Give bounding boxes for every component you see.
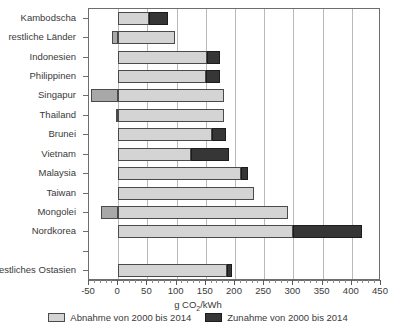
legend-swatch-increase-icon bbox=[205, 313, 222, 322]
bar-row bbox=[89, 86, 379, 106]
x-axis-tick bbox=[310, 280, 311, 283]
x-axis-tick bbox=[333, 280, 334, 283]
legend-item-increase: Zunahme von 2000 bis 2014 bbox=[205, 312, 347, 323]
bar-row bbox=[89, 242, 379, 262]
y-axis-label-brunei: Brunei bbox=[49, 124, 76, 144]
x-axis-tick bbox=[362, 280, 363, 283]
bar-row bbox=[89, 67, 379, 87]
bar-increase bbox=[227, 264, 232, 277]
x-axis-tick bbox=[281, 280, 282, 283]
x-axis-tick bbox=[135, 280, 136, 283]
x-axis-tick-label: 300 bbox=[284, 285, 300, 296]
x-axis-tick-label: 0 bbox=[115, 285, 120, 296]
x-axis-tick bbox=[269, 280, 270, 283]
y-axis-label-malaysia: Malaysia bbox=[39, 163, 77, 183]
bar-decrease bbox=[118, 12, 149, 25]
bar-increase bbox=[149, 12, 168, 25]
x-axis-tick bbox=[345, 280, 346, 283]
bar-decrease bbox=[118, 31, 175, 44]
bar-row bbox=[89, 203, 379, 223]
chart-legend: Abnahme von 2000 bis 2014 Zunahme von 20… bbox=[0, 312, 396, 323]
x-axis-title-post: /kWh bbox=[200, 299, 222, 310]
bar-decrease bbox=[118, 187, 254, 200]
y-axis-label-vietnam: Vietnam bbox=[41, 144, 76, 164]
x-axis-title-pre: g CO bbox=[174, 299, 196, 310]
x-axis-tick bbox=[181, 280, 182, 283]
bar-decrease bbox=[118, 70, 206, 83]
bar-row bbox=[89, 9, 379, 29]
x-axis-tick-label: 50 bbox=[141, 285, 152, 296]
bar-increase bbox=[293, 225, 362, 238]
x-axis-tick bbox=[187, 280, 188, 283]
y-axis-label-philippinen: Philippinen bbox=[30, 66, 76, 86]
bar-row bbox=[89, 106, 379, 126]
bar-decrease bbox=[118, 128, 211, 141]
x-axis-tick-label: 100 bbox=[168, 285, 184, 296]
bar-rows bbox=[89, 9, 379, 279]
bar-row bbox=[89, 145, 379, 165]
bar-row bbox=[89, 164, 379, 184]
x-axis-tick bbox=[368, 280, 369, 283]
x-axis-tick bbox=[100, 280, 101, 283]
x-axis-tick bbox=[170, 280, 171, 283]
y-axis-label-mongolei: Mongolei bbox=[37, 202, 76, 222]
x-axis-tick bbox=[275, 280, 276, 283]
x-axis-tick bbox=[211, 280, 212, 283]
x-axis-tick bbox=[222, 280, 223, 283]
chart-container: Kambodscharestliche LänderIndonesienPhil… bbox=[0, 0, 396, 327]
x-axis-tick bbox=[304, 280, 305, 283]
bar-decrease bbox=[118, 89, 224, 102]
bar-decrease bbox=[118, 167, 241, 180]
x-axis-tick bbox=[123, 280, 124, 283]
legend-swatch-decrease-icon bbox=[48, 313, 65, 322]
x-axis-tick bbox=[193, 280, 194, 283]
x-axis-tick bbox=[164, 280, 165, 283]
x-axis-tick bbox=[374, 280, 375, 283]
bar-decrease bbox=[118, 225, 293, 238]
x-axis-tick bbox=[316, 280, 317, 283]
y-axis-label-indonesien: Indonesien bbox=[30, 47, 76, 67]
bar-row bbox=[89, 125, 379, 145]
bar-increase bbox=[207, 51, 220, 64]
x-axis-tick bbox=[199, 280, 200, 283]
x-axis-tick bbox=[298, 280, 299, 283]
x-axis-tick bbox=[216, 280, 217, 283]
x-axis-tick bbox=[246, 280, 247, 283]
x-axis-tick bbox=[228, 280, 229, 283]
bar-negative bbox=[101, 206, 119, 219]
x-axis-tick-label: 150 bbox=[197, 285, 213, 296]
y-axis-label-taiwan: Taiwan bbox=[46, 183, 76, 203]
x-axis-tick bbox=[94, 280, 95, 283]
bar-row bbox=[89, 261, 379, 281]
y-axis-label-restliches-ostasien: restliches Ostasien bbox=[0, 260, 76, 280]
x-axis-title: g CO2/kWh bbox=[0, 299, 396, 312]
bar-decrease bbox=[118, 109, 224, 122]
x-axis-tick bbox=[111, 280, 112, 283]
x-axis-tick bbox=[357, 280, 358, 283]
legend-label-decrease: Abnahme von 2000 bis 2014 bbox=[70, 312, 191, 323]
y-axis-label-restliche-l-nder: restliche Länder bbox=[8, 27, 76, 47]
x-axis-tick bbox=[287, 280, 288, 283]
y-axis-labels: Kambodscharestliche LänderIndonesienPhil… bbox=[0, 8, 84, 280]
x-axis-tick-label: 450 bbox=[372, 285, 388, 296]
x-axis-tick-label: 400 bbox=[343, 285, 359, 296]
bar-decrease bbox=[118, 206, 287, 219]
bar-increase bbox=[241, 167, 249, 180]
y-axis-label-nordkorea: Nordkorea bbox=[32, 221, 76, 241]
x-axis-tick bbox=[257, 280, 258, 283]
x-axis-tick bbox=[158, 280, 159, 283]
x-axis-tick-label: 200 bbox=[226, 285, 242, 296]
x-axis-tick-label: -50 bbox=[81, 285, 95, 296]
bar-increase bbox=[212, 128, 227, 141]
bar-row bbox=[89, 222, 379, 242]
legend-label-increase: Zunahme von 2000 bis 2014 bbox=[227, 312, 347, 323]
bar-decrease bbox=[118, 148, 191, 161]
plot-area bbox=[88, 8, 380, 280]
x-axis-tick bbox=[141, 280, 142, 283]
x-axis-tick bbox=[240, 280, 241, 283]
bar-increase bbox=[191, 148, 229, 161]
legend-item-decrease: Abnahme von 2000 bis 2014 bbox=[48, 312, 191, 323]
bar-increase bbox=[206, 70, 221, 83]
y-axis-label-singapur: Singapur bbox=[38, 85, 76, 105]
bar-row bbox=[89, 28, 379, 48]
